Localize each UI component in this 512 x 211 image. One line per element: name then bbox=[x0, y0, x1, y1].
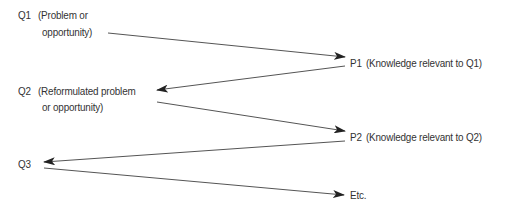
etc-text: Etc. bbox=[350, 188, 366, 202]
q1-id: Q1 bbox=[18, 8, 31, 22]
q2-line2: or opportunity) bbox=[42, 100, 103, 114]
p1-text: (Knowledge relevant to Q1) bbox=[366, 56, 482, 70]
arrow-p1-to-q2 bbox=[157, 66, 345, 90]
q1-line2: opportunity) bbox=[42, 25, 92, 39]
p1-id: P1 bbox=[350, 56, 362, 70]
q2-id: Q2 bbox=[18, 84, 31, 98]
arrow-p2-to-q3 bbox=[44, 141, 345, 162]
p2-text: (Knowledge relevant to Q2) bbox=[366, 130, 482, 144]
q3-id: Q3 bbox=[18, 157, 31, 171]
p2-id: P2 bbox=[350, 130, 362, 144]
arrow-q2-to-p2 bbox=[157, 102, 345, 131]
q2-line1: (Reformulated problem bbox=[38, 84, 136, 98]
arrow-q3-to-etc bbox=[44, 168, 344, 195]
q1-line1: (Problem or bbox=[38, 8, 88, 22]
arrow-q1-to-p1 bbox=[108, 33, 345, 57]
